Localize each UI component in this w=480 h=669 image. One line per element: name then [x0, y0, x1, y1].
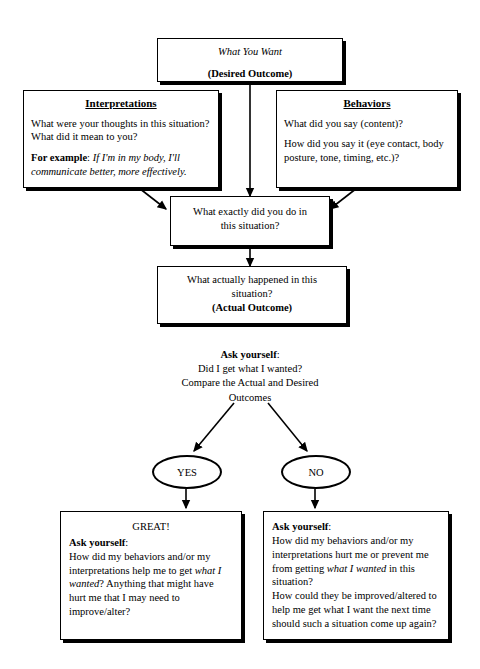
box-yes-outcome: GREAT! Ask yourself: How did my behavior…	[60, 511, 242, 640]
interpretations-example-label: For example	[31, 152, 87, 163]
interpretations-question: What were your thoughts in this situatio…	[31, 117, 211, 145]
no-outcome-ask-sep: :	[328, 521, 331, 532]
what-exactly-line1: What exactly did you do in	[178, 205, 322, 219]
yes-outcome-ask-label: Ask yourself	[69, 537, 125, 548]
decision-no-label: NO	[308, 467, 323, 478]
yes-outcome-ask-sep: :	[125, 537, 128, 548]
no-outcome-ask-heading: Ask yourself:	[272, 520, 440, 534]
actual-outcome-line1: What actually happened in this	[165, 273, 339, 287]
no-outcome-body-2: How could they be improved/altered to he…	[272, 589, 440, 631]
ask-yourself-block: Ask yourself: Did I get what I wanted? C…	[150, 348, 350, 405]
ask-yourself-heading: Ask yourself:	[150, 348, 350, 362]
ask-yourself-line3: Outcomes	[150, 391, 350, 405]
behaviors-question-2: How did you say it (eye contact, body po…	[284, 137, 450, 165]
yes-outcome-ask-heading: Ask yourself:	[69, 536, 233, 550]
ask-yourself-label: Ask yourself	[220, 349, 276, 360]
box-behaviors: Behaviors What did you say (content)? Ho…	[276, 90, 458, 188]
interpretations-header: Interpretations	[31, 96, 211, 111]
behaviors-question-1: What did you say (content)?	[284, 117, 450, 131]
ask-yourself-line1: Did I get what I wanted?	[150, 362, 350, 376]
box-what-exactly: What exactly did you do in this situatio…	[170, 196, 330, 246]
decision-no: NO	[281, 455, 351, 489]
box-actual-outcome: What actually happened in this situation…	[157, 266, 347, 324]
desired-outcome-line2: (Desired Outcome)	[165, 67, 335, 81]
decision-yes-label: YES	[177, 467, 197, 478]
yes-outcome-body-a: How did my behaviors and/or my interpret…	[69, 551, 210, 576]
interpretations-example: For example: If I'm in my body, I'll com…	[31, 151, 211, 179]
yes-outcome-great: GREAT!	[69, 520, 233, 534]
behaviors-header: Behaviors	[284, 96, 450, 111]
no-outcome-body-italic: what I wanted	[327, 563, 387, 574]
actual-outcome-line3: (Actual Outcome)	[165, 301, 339, 315]
actual-outcome-line2: situation?	[165, 287, 339, 301]
box-desired-outcome: What You Want (Desired Outcome)	[157, 38, 343, 82]
no-outcome-ask-label: Ask yourself	[272, 521, 328, 532]
box-interpretations: Interpretations What were your thoughts …	[23, 90, 219, 188]
box-no-outcome: Ask yourself: How did my behaviors and/o…	[263, 511, 449, 640]
decision-yes: YES	[152, 455, 222, 489]
ask-yourself-line2: Compare the Actual and Desired	[150, 376, 350, 390]
no-outcome-body-1: How did my behaviors and/or my interpret…	[272, 534, 440, 589]
what-exactly-line2: this situation?	[178, 219, 322, 233]
yes-outcome-body: How did my behaviors and/or my interpret…	[69, 550, 233, 619]
desired-outcome-line1: What You Want	[165, 45, 335, 59]
flowchart-page: What You Want (Desired Outcome) Interpre…	[0, 0, 480, 669]
ask-yourself-sep: :	[277, 349, 280, 360]
